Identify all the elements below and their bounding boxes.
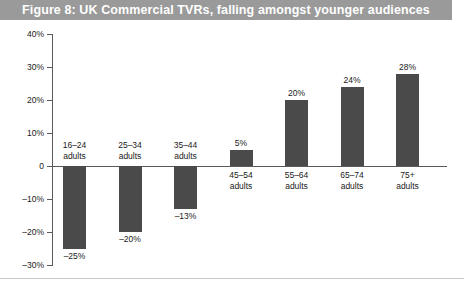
bar [63,166,86,249]
y-tick-label: –10% [4,195,44,204]
bar-category-label-line: adults [48,151,102,162]
bar [230,150,253,167]
bar [341,87,364,166]
bar [174,166,197,209]
y-tick-mark [47,166,52,167]
bar [119,166,142,232]
bottom-rule [0,278,464,279]
bar-category-label-line: adults [103,151,157,162]
bar-category-label-line: 35–44 [159,140,213,151]
y-tick-label: 20% [4,96,44,105]
chart-plot-area: 40%30%20%10%0–10%–20%–30% –25%16–24adult… [0,20,464,280]
bar-value-label: 24% [329,76,375,85]
y-tick-label: 30% [4,63,44,72]
y-tick-mark [47,100,52,101]
y-tick-mark [47,133,52,134]
bar-value-label: –13% [163,212,209,221]
figure-container: Figure 8: UK Commercial TVRs, falling am… [0,0,464,288]
y-tick-mark [47,265,52,266]
bar [285,100,308,166]
y-tick-label: –20% [4,228,44,237]
bar-category-label-line: adults [325,181,379,192]
bar [396,74,419,166]
bar-category-label-line: 75+ [381,170,435,181]
bar-category-label: 55–64adults [270,170,324,192]
bar-value-label: 20% [274,89,320,98]
bar-category-label: 75+adults [381,170,435,192]
figure-title-bar: Figure 8: UK Commercial TVRs, falling am… [0,0,452,20]
figure-title: Figure 8: UK Commercial TVRs, falling am… [22,3,430,17]
bar-category-label: 25–34adults [103,140,157,162]
bar-category-label-line: 16–24 [48,140,102,151]
bar-category-label-line: 55–64 [270,170,324,181]
bar-category-label: 16–24adults [48,140,102,162]
bar-category-label-line: adults [214,181,268,192]
bar-category-label: 45–54adults [214,170,268,192]
y-tick-mark [47,232,52,233]
bar-value-label: –25% [52,252,98,261]
y-tick-mark [47,67,52,68]
bar-category-label: 65–74adults [325,170,379,192]
bar-category-label-line: 25–34 [103,140,157,151]
bar-value-label: 5% [218,139,264,148]
y-tick-label: –30% [4,261,44,270]
y-tick-label: 0 [4,162,44,171]
bar-category-label-line: 65–74 [325,170,379,181]
zero-baseline [52,166,447,167]
bar-value-label: –20% [107,235,153,244]
y-tick-mark [47,34,52,35]
bar-category-label-line: adults [381,181,435,192]
bar-value-label: 28% [385,63,431,72]
y-tick-label: 40% [4,30,44,39]
y-tick-mark [47,199,52,200]
bar-category-label-line: adults [270,181,324,192]
y-tick-label: 10% [4,129,44,138]
bar-category-label: 35–44adults [159,140,213,162]
bar-category-label-line: 45–54 [214,170,268,181]
bar-category-label-line: adults [159,151,213,162]
